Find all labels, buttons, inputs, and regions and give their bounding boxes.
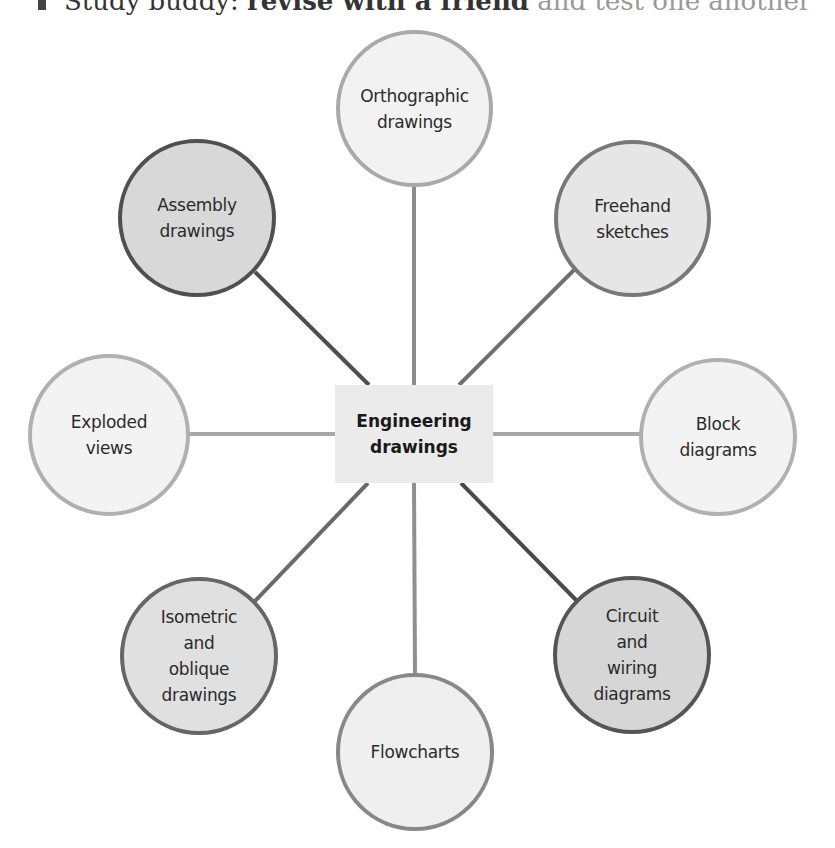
node-label: Assembly drawings — [157, 192, 237, 244]
connector-isometric — [255, 483, 368, 601]
node-label: Flowcharts — [371, 739, 460, 765]
node-orthographic-drawings: Orthographic drawings — [336, 30, 493, 187]
node-label: Block diagrams — [679, 411, 756, 463]
node-label: Isometric and oblique drawings — [161, 604, 237, 708]
node-label: Orthographic drawings — [360, 83, 468, 135]
central-topic: Engineering drawings — [335, 385, 493, 483]
node-assembly-drawings: Assembly drawings — [118, 139, 276, 297]
node-circuit-and-wiring-diagrams: Circuit and wiring diagrams — [553, 576, 711, 734]
node-exploded-views: Exploded views — [28, 354, 190, 516]
node-label: Circuit and wiring diagrams — [593, 603, 670, 707]
central-topic-label: Engineering drawings — [356, 408, 471, 460]
node-label: Exploded views — [71, 409, 147, 461]
node-label: Freehand sketches — [594, 193, 670, 245]
connector-freehand — [459, 267, 577, 385]
node-isometric-and-oblique-drawings: Isometric and oblique drawings — [120, 577, 278, 735]
connector-circuit — [461, 483, 578, 602]
node-block-diagrams: Block diagrams — [639, 358, 797, 516]
connector-assembly — [255, 272, 369, 385]
connector-flowcharts — [414, 483, 415, 674]
node-freehand-sketches: Freehand sketches — [554, 140, 711, 297]
node-flowcharts: Flowcharts — [336, 673, 494, 831]
